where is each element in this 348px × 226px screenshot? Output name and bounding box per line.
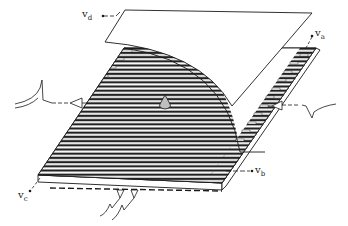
va-terminal [306, 35, 313, 48]
electrode-diagram [0, 0, 348, 226]
label-vc: vc [18, 190, 28, 203]
left-amplifier-icon [70, 98, 82, 108]
vd-terminal [102, 12, 120, 17]
left-signal-pulse [15, 80, 88, 108]
label-va: va [315, 28, 325, 41]
bottom-amplifier-icon-1 [117, 190, 124, 198]
label-vb: vb [255, 165, 265, 178]
vc-terminal [29, 178, 40, 192]
label-vd: vd [82, 9, 92, 22]
base-plate [0, 40, 348, 191]
bottom-signal-pulses [100, 190, 138, 220]
bottom-amplifier-icon-2 [131, 190, 138, 198]
